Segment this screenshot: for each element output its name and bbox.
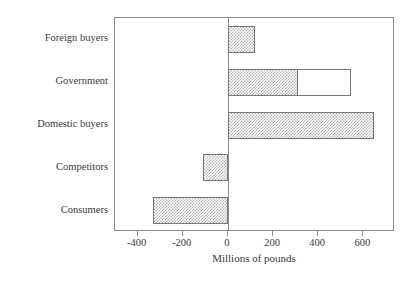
x-tick-label: 400 [297,237,337,249]
plot-area [114,17,394,231]
x-tick-mark [137,231,138,236]
category-label-competitors: Competitors [56,161,108,173]
category-label-consumers: Consumers [61,204,108,216]
x-tick-label: 0 [207,237,247,249]
x-tick-label: 200 [252,237,292,249]
x-tick-mark [272,231,273,236]
bar-segment-filled [153,197,228,224]
bar-segment-filled [228,69,298,96]
bar-segment-filled [228,112,374,139]
x-tick-mark [362,231,363,236]
bar-segment-filled [228,26,255,53]
x-tick-mark [227,231,228,236]
x-tick-label: -200 [162,237,202,249]
x-tick-label: -400 [117,237,157,249]
category-label-government: Government [56,75,109,87]
category-label-foreign-buyers: Foreign buyers [45,32,108,44]
x-axis-title: Millions of pounds [114,252,394,265]
bar-row [115,197,393,224]
bar-chart-figure: Foreign buyersGovernmentDomestic buyersC… [0,0,410,281]
x-tick-mark [182,231,183,236]
x-tick-mark [317,231,318,236]
bar-row [115,154,393,181]
bar-row [115,69,393,96]
bar-row [115,26,393,53]
category-label-domestic-buyers: Domestic buyers [37,118,108,130]
bar-segment-filled [203,154,228,181]
x-tick-label: 600 [342,237,382,249]
bar-row [115,112,393,139]
